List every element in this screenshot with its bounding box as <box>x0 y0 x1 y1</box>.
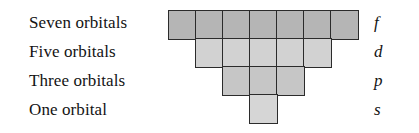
orbital-grid <box>163 10 364 129</box>
orbital-cell <box>330 10 359 40</box>
orbital-cell <box>222 38 251 68</box>
orbital-cell <box>222 66 251 96</box>
orbital-count-diagram: Seven orbitals Five orbitals Three orbit… <box>0 0 419 133</box>
subshell-letter-p: p <box>374 66 404 95</box>
orbital-label-p: Three orbitals <box>29 66 161 95</box>
subshell-letter-f: f <box>374 8 404 37</box>
orbital-cell <box>168 10 197 40</box>
orbital-cell <box>276 10 305 40</box>
orbital-cell <box>303 38 332 68</box>
orbital-cell <box>195 10 224 40</box>
orbital-label-s: One orbital <box>29 95 161 124</box>
orbital-label-d: Five orbitals <box>29 37 161 66</box>
orbital-cell <box>249 10 278 40</box>
orbital-cell <box>195 38 224 68</box>
subshell-letter-column: f d p s <box>374 8 404 124</box>
orbital-grid-row-s <box>163 94 364 124</box>
orbital-label-column: Seven orbitals Five orbitals Three orbit… <box>29 8 161 124</box>
orbital-cell <box>249 66 278 96</box>
orbital-cell <box>249 94 278 124</box>
orbital-cell <box>276 38 305 68</box>
subshell-letter-s: s <box>374 95 404 124</box>
orbital-cell <box>222 10 251 40</box>
orbital-grid-row-d <box>163 38 364 68</box>
orbital-cell <box>249 38 278 68</box>
orbital-label-f: Seven orbitals <box>29 8 161 37</box>
orbital-grid-row-f <box>163 10 364 40</box>
subshell-letter-d: d <box>374 37 404 66</box>
orbital-grid-row-p <box>163 66 364 96</box>
orbital-cell <box>303 10 332 40</box>
orbital-cell <box>276 66 305 96</box>
